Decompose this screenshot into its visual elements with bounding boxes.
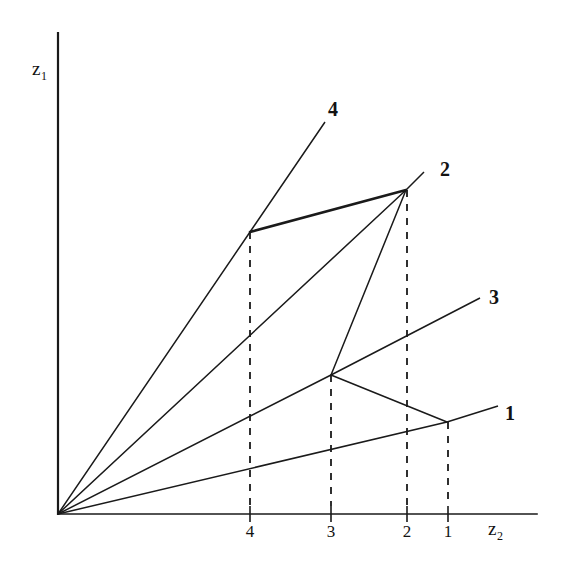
- curve-label-2: 2: [440, 158, 450, 181]
- ray-diagram-svg: [0, 0, 564, 569]
- x-tick-label-3: 3: [321, 522, 341, 542]
- x-axis-label: z2: [488, 518, 503, 544]
- drop-lines-group: [250, 190, 448, 506]
- ray-2: [58, 172, 424, 514]
- x-tick-label-2: 2: [397, 522, 417, 542]
- ray-series-group: [58, 122, 498, 514]
- curve-label-4: 4: [328, 98, 338, 121]
- x-tick-label-4: 4: [240, 522, 260, 542]
- ray-3: [58, 298, 480, 514]
- ray-4: [58, 122, 325, 514]
- ray-1: [58, 406, 498, 514]
- x-tick-label-1: 1: [438, 522, 458, 542]
- seg-3-to-1: [331, 375, 447, 422]
- seg-2-to-3: [331, 190, 406, 375]
- curve-label-3: 3: [489, 286, 499, 309]
- connector-segments-group: [250, 190, 447, 422]
- curve-label-1: 1: [505, 402, 515, 425]
- y-axis-label: z1: [32, 58, 47, 84]
- axes-group: [58, 33, 537, 514]
